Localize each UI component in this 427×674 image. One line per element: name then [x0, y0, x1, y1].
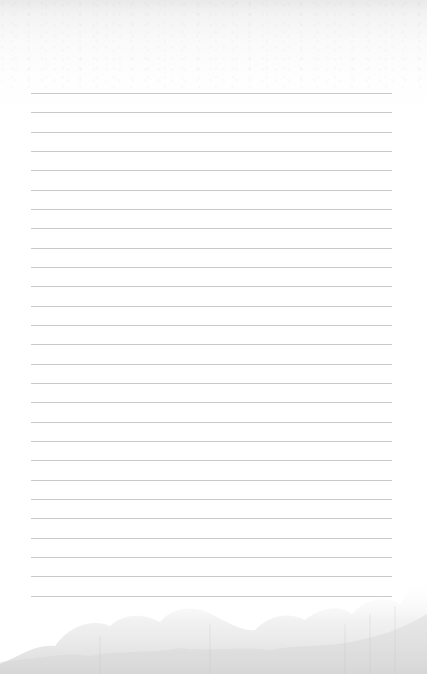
ruled-line [31, 518, 392, 519]
ruled-line [31, 248, 392, 249]
ruled-line [31, 383, 392, 384]
ruled-line [31, 499, 392, 500]
ruled-line [31, 460, 392, 461]
ruled-line [31, 344, 392, 345]
ruled-line [31, 267, 392, 268]
tree-silhouette-decoration [0, 564, 427, 674]
ruled-line [31, 132, 392, 133]
ruled-line [31, 306, 392, 307]
ruled-line [31, 228, 392, 229]
ruled-line [31, 209, 392, 210]
ruled-line [31, 557, 392, 558]
ruled-line [31, 286, 392, 287]
ruled-line [31, 151, 392, 152]
ruled-line [31, 364, 392, 365]
lined-paper-page [0, 0, 427, 674]
ruled-line [31, 112, 392, 113]
ruled-line [31, 190, 392, 191]
ruled-line [31, 402, 392, 403]
ruled-line [31, 422, 392, 423]
ruled-line [31, 538, 392, 539]
ruled-line [31, 170, 392, 171]
ruled-line [31, 93, 392, 94]
ruled-line [31, 441, 392, 442]
ruled-line [31, 325, 392, 326]
ruled-line [31, 480, 392, 481]
